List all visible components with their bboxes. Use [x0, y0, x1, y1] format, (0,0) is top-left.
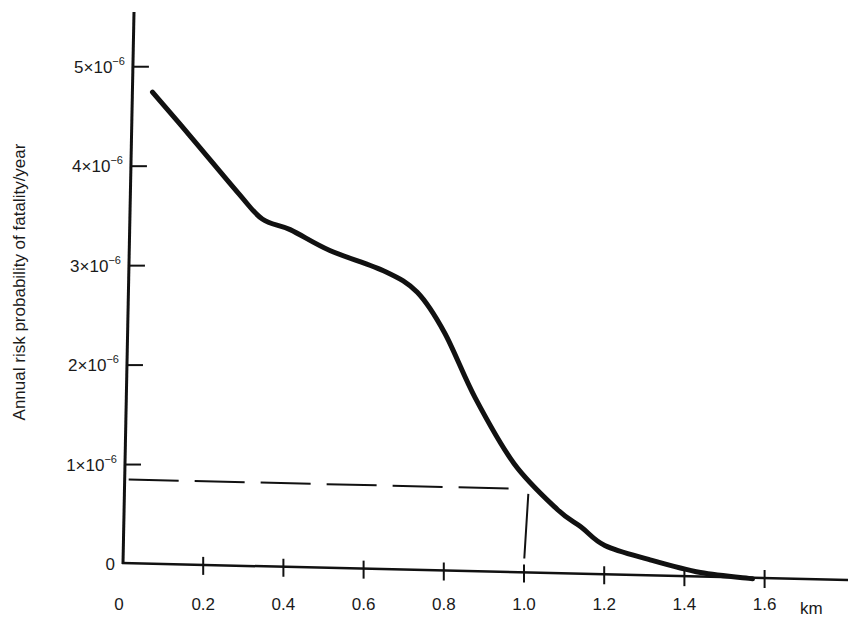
y-tick-label: 2×10−6 — [68, 353, 119, 375]
x-tick-label: 0.4 — [272, 595, 296, 614]
x-tick-label: 1.0 — [512, 595, 536, 614]
y-tick-label: 0 — [106, 555, 115, 574]
y-tick-label: 1×10−6 — [66, 453, 117, 475]
y-ticks: 01×10−62×10−63×10−64×10−65×10−6 — [66, 55, 149, 574]
x-tick-label: 0 — [114, 595, 123, 614]
x-tick-label: 0.8 — [432, 595, 456, 614]
x-tick-label: 1.6 — [753, 595, 777, 614]
x-tick-label: 1.4 — [673, 595, 697, 614]
y-tick-label: 5×10−6 — [74, 55, 125, 77]
x-tick-label: 1.2 — [592, 595, 616, 614]
risk-curve — [152, 92, 752, 579]
y-tick-label: 3×10−6 — [70, 254, 121, 276]
y-axis-line — [123, 12, 134, 564]
dashed-horizontal-line — [129, 479, 514, 488]
x-tick-label: 0.2 — [191, 595, 215, 614]
y-axis-label: Annual risk probability of fatality/year — [10, 143, 29, 420]
dashed-reference-lines — [129, 479, 529, 558]
x-tick-label: 0.6 — [352, 595, 376, 614]
y-tick-label: 4×10−6 — [72, 154, 123, 176]
y-axis-label-group: Annual risk probability of fatality/year — [10, 143, 29, 420]
risk-distance-chart: Annual risk probability of fatality/year… — [0, 0, 855, 629]
axes — [122, 12, 848, 580]
dashed-vertical-line — [524, 494, 528, 559]
x-axis-unit-label: km — [800, 599, 823, 618]
